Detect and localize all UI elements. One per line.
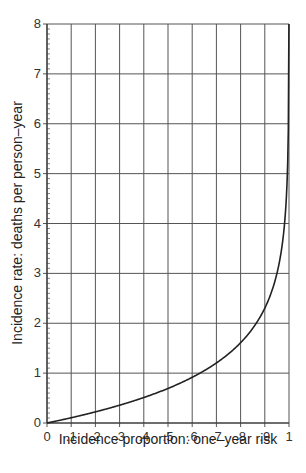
y-axis-title: Incidence rate: deaths per person–year [9, 101, 25, 345]
y-tick-label: 5 [34, 166, 41, 181]
y-tick-label: 4 [34, 216, 41, 231]
y-tick-label: 1 [34, 365, 41, 380]
y-tick-label: 0 [34, 415, 41, 430]
y-tick-label: 8 [34, 16, 41, 31]
x-axis-title: Incidence proportion: one–year risk [59, 431, 279, 447]
y-tick-label: 6 [34, 116, 41, 131]
grid [43, 24, 289, 427]
y-tick-label: 7 [34, 66, 41, 81]
y-tick-labels: 012345678 [34, 16, 41, 430]
x-tick-label: 0 [43, 429, 50, 444]
y-tick-label: 2 [34, 315, 41, 330]
y-tick-label: 3 [34, 265, 41, 280]
chart: 0.1.2.3.4.5.6.7.8.91 012345678 Incidence… [0, 0, 306, 473]
x-tick-label: 1 [285, 429, 292, 444]
